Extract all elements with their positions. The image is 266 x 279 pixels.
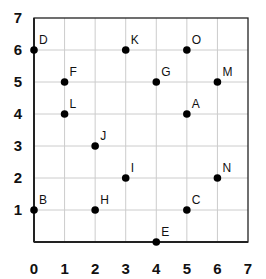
- data-point: O: [183, 33, 201, 54]
- axes: [34, 18, 248, 242]
- point-marker: [214, 78, 222, 86]
- data-point: I: [122, 161, 134, 182]
- point-label: M: [222, 65, 232, 79]
- data-point: K: [122, 33, 139, 54]
- point-marker: [152, 78, 160, 86]
- y-tick-label: 2: [14, 169, 22, 186]
- x-axis-ticks: 01234567: [30, 260, 252, 277]
- coordinate-grid-chart: 01234567 1234567 ABCDEFGHIJKLMNO: [0, 0, 266, 279]
- point-marker: [30, 206, 38, 214]
- y-tick-label: 1: [14, 201, 22, 218]
- data-point: F: [61, 65, 77, 86]
- grid-lines: [34, 18, 248, 242]
- x-tick-label: 5: [183, 260, 191, 277]
- point-label: J: [100, 129, 106, 143]
- data-point: B: [30, 193, 47, 214]
- x-tick-label: 3: [122, 260, 130, 277]
- point-label: B: [39, 193, 47, 207]
- x-tick-label: 7: [244, 260, 252, 277]
- point-marker: [214, 174, 222, 182]
- y-tick-label: 7: [14, 9, 22, 26]
- point-marker: [122, 46, 130, 54]
- data-point: N: [214, 161, 231, 182]
- point-marker: [183, 206, 191, 214]
- y-tick-label: 5: [14, 73, 22, 90]
- point-marker: [122, 174, 130, 182]
- point-label: N: [222, 161, 231, 175]
- point-label: H: [100, 193, 109, 207]
- point-label: K: [131, 33, 139, 47]
- y-tick-label: 4: [14, 105, 23, 122]
- data-point: M: [214, 65, 233, 86]
- x-tick-label: 6: [213, 260, 221, 277]
- data-point: C: [183, 193, 201, 214]
- point-marker: [152, 238, 160, 246]
- point-label: A: [192, 97, 200, 111]
- x-tick-label: 0: [30, 260, 38, 277]
- data-point: G: [152, 65, 170, 86]
- point-label: F: [70, 65, 77, 79]
- point-label: O: [192, 33, 201, 47]
- y-tick-label: 3: [14, 137, 22, 154]
- y-tick-label: 6: [14, 41, 22, 58]
- point-marker: [183, 110, 191, 118]
- point-marker: [91, 142, 99, 150]
- point-marker: [61, 110, 69, 118]
- point-marker: [183, 46, 191, 54]
- data-point: L: [61, 97, 77, 118]
- point-label: D: [39, 33, 48, 47]
- point-marker: [30, 46, 38, 54]
- data-point: H: [91, 193, 108, 214]
- data-points: ABCDEFGHIJKLMNO: [30, 33, 232, 246]
- x-tick-label: 4: [152, 260, 161, 277]
- point-label: L: [70, 97, 77, 111]
- point-label: E: [161, 225, 169, 239]
- x-tick-label: 2: [91, 260, 99, 277]
- point-label: I: [131, 161, 134, 175]
- data-point: A: [183, 97, 200, 118]
- y-axis-ticks: 1234567: [14, 9, 23, 218]
- data-point: J: [91, 129, 106, 150]
- x-tick-label: 1: [60, 260, 68, 277]
- point-marker: [61, 78, 69, 86]
- point-label: C: [192, 193, 201, 207]
- plot-border: [34, 18, 248, 242]
- data-point: D: [30, 33, 48, 54]
- point-marker: [91, 206, 99, 214]
- point-label: G: [161, 65, 170, 79]
